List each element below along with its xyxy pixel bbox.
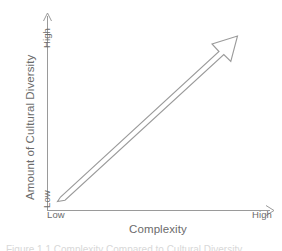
y-tick-label-high: High (42, 28, 52, 48)
y-tick-label-low: Low (42, 190, 52, 208)
x-tick-label-low: Low (47, 210, 65, 220)
figure-container: Amount of Cultural Diversity High Low Lo… (0, 0, 282, 251)
trend-arrow-icon (58, 36, 238, 202)
x-axis-title: Complexity (0, 224, 282, 236)
figure-caption: Figure 1.1 Complexity Compared to Cultur… (6, 244, 276, 251)
x-tick-label-high: High (252, 210, 272, 220)
y-axis-title: Amount of Cultural Diversity (25, 10, 37, 200)
x-axis (48, 206, 275, 216)
